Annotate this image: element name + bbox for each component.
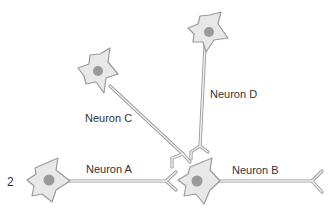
neuron-a-nucleus: [44, 175, 55, 186]
neuron-c: [78, 48, 190, 167]
neuron-c-nucleus: [93, 66, 103, 76]
neuron-a-label: Neuron A: [86, 163, 132, 175]
figure-number-label: 2: [7, 175, 14, 189]
neuron-b-nucleus: [192, 176, 203, 187]
neuron-d-nucleus: [204, 27, 214, 37]
neuron-network-illustration: [0, 0, 328, 215]
neuron-d-label: Neuron D: [210, 88, 257, 100]
neuron-d: [188, 12, 228, 159]
neuron-c-label: Neuron C: [85, 112, 132, 124]
neuron-b-label: Neuron B: [232, 164, 278, 176]
